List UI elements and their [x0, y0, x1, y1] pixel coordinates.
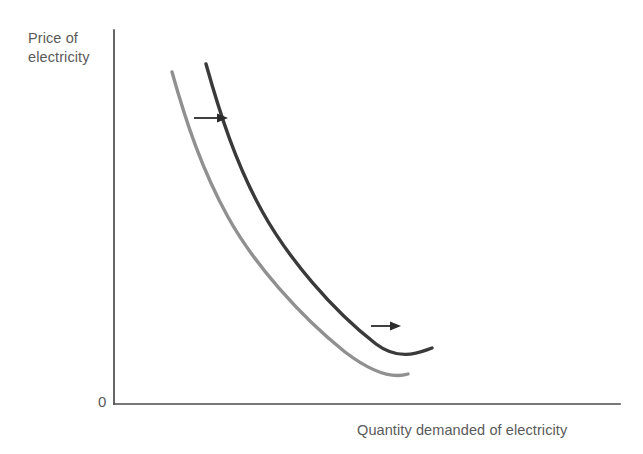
x-axis-label: Quantity demanded of electricity: [357, 421, 567, 440]
axes-group: [114, 30, 620, 404]
origin-label: 0: [98, 393, 106, 410]
demand-curve-shift-figure: Price of electricity Quantity demanded o…: [0, 0, 643, 454]
chart-canvas: [0, 0, 643, 454]
shift-arrow-lower-icon: [371, 322, 401, 331]
y-axis-label: Price of electricity: [28, 29, 90, 67]
shifted-demand-curve: [206, 64, 432, 354]
